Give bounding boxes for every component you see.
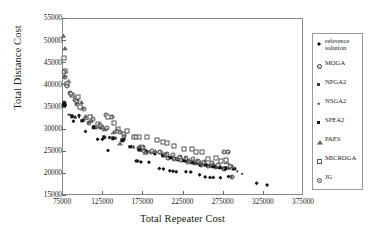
legend-marker-icon — [317, 140, 323, 145]
legend-label: PAES — [325, 135, 341, 142]
legend-item[interactable]: NPGA2 — [316, 79, 361, 93]
x-tick-label: 125000 — [79, 198, 125, 205]
y-tick-mark — [62, 62, 66, 63]
y-tick-mark — [62, 18, 66, 19]
legend-item[interactable]: reference solution — [316, 38, 361, 52]
legend-marker-icon — [317, 64, 322, 69]
legend-label: reference solution — [325, 37, 350, 52]
x-tick-mark — [102, 191, 103, 195]
y-tick-label: 30000 — [28, 125, 62, 132]
y-tick-mark — [62, 84, 66, 85]
y-tick-mark — [62, 195, 66, 196]
legend-marker-icon — [317, 83, 320, 86]
legend-marker-icon — [317, 178, 322, 183]
x-tick-label: 275000 — [200, 198, 246, 205]
x-tick-mark — [223, 191, 224, 195]
y-tick-label: 40000 — [28, 81, 62, 88]
legend-item[interactable]: PAES — [316, 136, 361, 150]
y-tick-label: 20000 — [28, 169, 62, 176]
y-tick-mark — [62, 173, 66, 174]
x-tick-mark — [263, 191, 264, 195]
x-tick-label: 225000 — [160, 198, 206, 205]
y-axis-label: Total Distance Cost — [12, 3, 23, 133]
y-tick-label: 50000 — [28, 37, 62, 44]
legend-item[interactable]: MICROGA — [316, 155, 361, 169]
legend-label: NPGA2 — [325, 78, 346, 85]
y-tick-label: 25000 — [28, 147, 62, 154]
x-axis-label: Total Repeater Cost — [62, 213, 303, 224]
tick-marks — [62, 18, 303, 195]
legend-label: NSGA2 — [325, 97, 346, 104]
y-tick-mark — [62, 129, 66, 130]
legend-marker-icon — [317, 102, 320, 105]
y-tick-label: 45000 — [28, 59, 62, 66]
y-tick-mark — [62, 107, 66, 108]
legend: reference solutionMOGANPGA2NSGA2SPEA2PAE… — [312, 33, 363, 190]
legend-marker-icon — [317, 42, 321, 46]
legend-item[interactable]: SPEA2 — [316, 117, 361, 131]
legend-label: JG — [325, 173, 332, 180]
x-tick-label: 325000 — [240, 198, 286, 205]
legend-marker-icon — [317, 121, 320, 124]
y-tick-label: 55000 — [28, 14, 62, 21]
x-tick-mark — [142, 191, 143, 195]
legend-label: SPEA2 — [325, 116, 344, 123]
x-tick-label: 175000 — [119, 198, 165, 205]
y-tick-label: 35000 — [28, 103, 62, 110]
legend-label: MICROGA — [325, 154, 356, 161]
legend-item[interactable]: MOGA — [316, 60, 361, 74]
scatter-chart: 1500020000250003000035000400004500050000… — [0, 0, 378, 241]
x-tick-label: 375000 — [280, 198, 326, 205]
x-axis: 7500012500017500022500027500032500037500… — [62, 196, 303, 210]
y-tick-mark — [62, 151, 66, 152]
x-tick-mark — [183, 191, 184, 195]
legend-marker-icon — [317, 159, 322, 164]
legend-item[interactable]: NSGA2 — [316, 98, 361, 112]
x-tick-label: 75000 — [39, 198, 85, 205]
legend-item[interactable]: JG — [316, 174, 361, 188]
y-tick-mark — [62, 40, 66, 41]
y-axis: 1500020000250003000035000400004500050000… — [20, 18, 62, 195]
legend-label: MOGA — [325, 59, 345, 66]
